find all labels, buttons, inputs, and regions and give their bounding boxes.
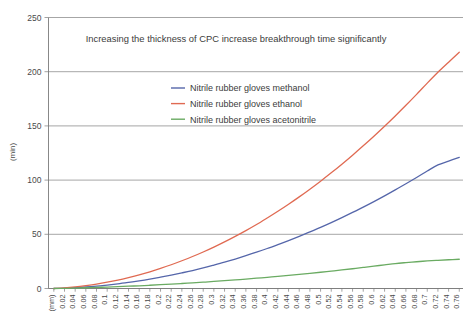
x-tick-label: (mm) — [47, 295, 56, 312]
legend-label-0: Nitrile rubber gloves methanol — [190, 83, 310, 93]
x-tick-label: 0.62 — [378, 295, 387, 309]
gridlines — [49, 18, 464, 289]
y-tick-label: 200 — [27, 67, 41, 77]
x-tick-label: 0.38 — [250, 295, 259, 309]
y-tick-label: 0 — [37, 284, 42, 294]
legend: Nitrile rubber gloves methanolNitrile ru… — [171, 83, 316, 124]
x-tick-label: 0.06 — [79, 295, 88, 309]
x-tick-label: 0.14 — [122, 295, 131, 309]
x-tick-label: 0.28 — [196, 295, 205, 309]
x-tick-label: 0.66 — [399, 295, 408, 309]
x-axis — [49, 289, 464, 292]
x-tick-label: 0.26 — [186, 295, 195, 309]
y-tick-label: 100 — [27, 175, 41, 185]
y-tick-label: 150 — [27, 121, 41, 131]
chart-title-text: Increasing the thickness of CPC increase… — [86, 33, 387, 44]
x-tick-label: 0.64 — [388, 295, 397, 309]
x-tick-label: 0.54 — [335, 295, 344, 309]
legend-label-1: Nitrile rubber gloves ethanol — [190, 99, 302, 109]
x-tick-label: 0.08 — [90, 295, 99, 309]
x-tick-label: 0.7 — [420, 295, 429, 305]
series-line-0 — [54, 157, 459, 288]
x-tick-label: 0.18 — [143, 295, 152, 309]
chart-container: 050100150200250 (mm)0.020.040.060.080.10… — [0, 0, 475, 332]
x-tick-label: 0.32 — [218, 295, 227, 309]
x-tick-label: 0.22 — [164, 295, 173, 309]
x-axis-tick-labels: (mm)0.020.040.060.080.10.120.140.160.180… — [47, 295, 461, 312]
x-tick-label: 0.04 — [68, 295, 77, 309]
y-tick-label: 250 — [27, 13, 41, 23]
x-tick-label: 0.12 — [111, 295, 120, 309]
x-tick-label: 0.4 — [260, 295, 269, 305]
legend-label-2: Nitrile rubber gloves acetonitrile — [190, 115, 316, 125]
y-axis-title: (min) — [8, 143, 17, 162]
x-tick-label: 0.44 — [282, 295, 291, 309]
y-axis — [45, 18, 49, 289]
chart-title: Increasing the thickness of CPC increase… — [86, 33, 387, 44]
y-axis-tick-labels: 050100150200250 — [27, 13, 41, 294]
x-tick-label: 0.74 — [442, 295, 451, 309]
x-tick-label: 0.48 — [303, 295, 312, 309]
line-chart: 050100150200250 (mm)0.020.040.060.080.10… — [0, 0, 475, 332]
x-tick-label: 0.42 — [271, 295, 280, 309]
x-tick-label: 0.3 — [207, 295, 216, 305]
x-tick-label: 0.34 — [228, 295, 237, 309]
x-tick-label: 0.56 — [346, 295, 355, 309]
x-tick-label: 0.58 — [356, 295, 365, 309]
x-tick-label: 0.02 — [58, 295, 67, 309]
x-tick-label: 0.36 — [239, 295, 248, 309]
x-tick-label: 0.1 — [100, 295, 109, 305]
x-tick-label: 0.52 — [324, 295, 333, 309]
x-tick-label: 0.46 — [292, 295, 301, 309]
x-tick-label: 0.2 — [154, 295, 163, 305]
x-tick-label: 0.24 — [175, 295, 184, 309]
x-tick-label: 0.68 — [410, 295, 419, 309]
x-tick-label: 0.72 — [431, 295, 440, 309]
x-tick-label: 0.5 — [314, 295, 323, 305]
x-tick-label: 0.6 — [367, 295, 376, 305]
x-tick-label: 0.16 — [132, 295, 141, 309]
y-tick-label: 50 — [32, 229, 42, 239]
y-axis-label: (min) — [8, 143, 17, 162]
x-tick-label: 0.76 — [452, 295, 461, 309]
